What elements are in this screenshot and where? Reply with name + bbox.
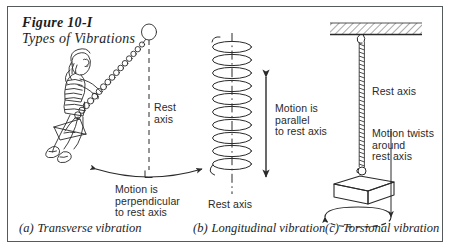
girl-stripe-3 — [66, 88, 83, 90]
block-front — [334, 184, 368, 204]
girl-hip-line-2 — [65, 109, 83, 111]
panel-c-ceiling — [330, 23, 422, 35]
panel-b-motion-label: Motion is parallel to rest axis — [275, 103, 327, 138]
swing-chain-lower — [65, 118, 75, 131]
girl-hip-line-1 — [65, 104, 84, 106]
girl-face — [87, 59, 90, 65]
cord-hook — [357, 35, 365, 44]
block-top — [334, 176, 394, 191]
panel-c-caption: (c)Torsional vibration — [325, 221, 439, 236]
panel-c-caption-text: Torsional vibration — [343, 221, 439, 235]
panel-a-caption-text: Transverse vibration — [38, 221, 142, 235]
girl-stripe-5 — [66, 98, 82, 99]
figure-title: Types of Vibrations — [22, 31, 135, 47]
panel-b-caption: (b)Longitudinal vibration — [193, 221, 325, 236]
panel-b-tag: (b) — [193, 221, 208, 235]
hanging-block — [334, 176, 394, 204]
twisted-cord — [359, 42, 364, 167]
panel-a-motion-arc — [96, 169, 202, 177]
panel-c-rest-axis-label: Rest axis — [372, 86, 416, 98]
girl-stripe-4 — [65, 93, 81, 95]
block-side — [368, 182, 394, 204]
panel-a-caption: (a)Transverse vibration — [19, 221, 141, 236]
girl-head — [72, 53, 91, 75]
panel-a-rest-axis-label: Rest axis — [154, 102, 176, 125]
girl-leg-back — [74, 117, 83, 149]
girl-shoe-2-line — [60, 156, 68, 157]
spring-top-tail — [212, 37, 220, 42]
panel-c-tag: (c) — [325, 221, 339, 235]
block-eyelet — [357, 167, 366, 175]
panel-b-artwork — [210, 37, 251, 175]
panel-b-rest-axis-label: Rest axis — [208, 199, 252, 211]
figure-number: Figure 10-I — [22, 15, 93, 31]
girl-mouth — [85, 66, 88, 67]
panel-a-motion-label: Motion is perpendicular to rest axis — [115, 184, 180, 219]
girl-stripe-1 — [68, 79, 83, 81]
swing-ring — [142, 24, 157, 40]
girl-arm — [80, 79, 101, 92]
ceiling-hatch-fill — [330, 23, 422, 34]
girl-hair-strand-3 — [75, 65, 77, 74]
figure-frame: Figure 10-I Types of Vibrations Rest axi… — [7, 6, 443, 242]
panel-b-caption-text: Longitudinal vibration — [212, 221, 326, 235]
cord-twists — [359, 44, 364, 166]
rotation-arc-back — [325, 207, 391, 217]
panel-a-tag: (a) — [19, 221, 34, 235]
panel-c-motion-label: Motion twists around rest axis — [372, 128, 434, 163]
